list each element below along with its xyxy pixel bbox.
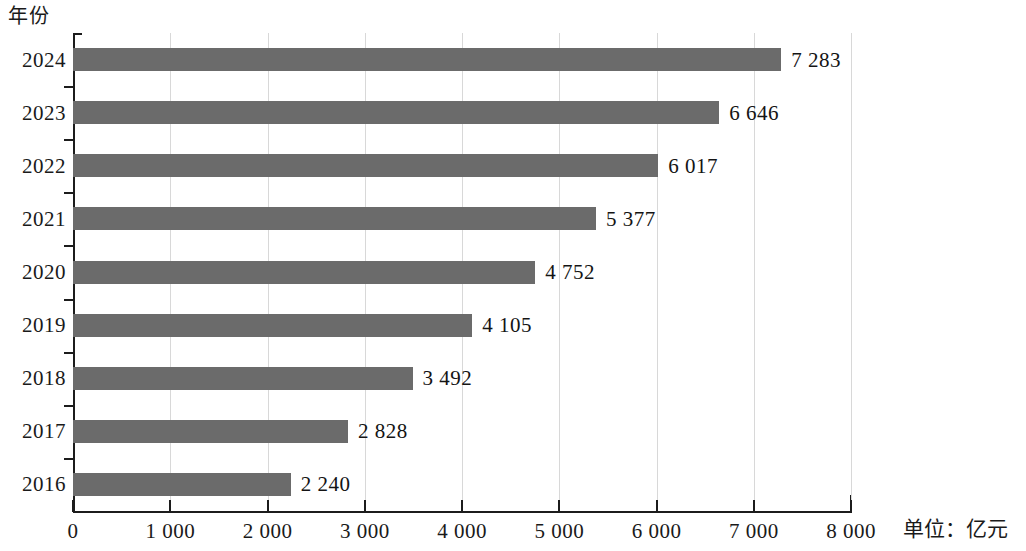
bar-value-label: 6 646 bbox=[729, 101, 779, 125]
bar-value-label: 2 240 bbox=[301, 472, 351, 496]
y-axis-category-label: 2022 bbox=[0, 154, 66, 178]
y-axis-title: 年份 bbox=[8, 4, 50, 28]
x-axis-tick-label: 7 000 bbox=[729, 518, 779, 544]
bar-chart: 年份 01 0002 0003 0004 0005 0006 0007 0008… bbox=[0, 0, 1026, 551]
x-axis-tick-label: 6 000 bbox=[632, 518, 682, 544]
y-axis-category-label: 2019 bbox=[0, 313, 66, 337]
y-axis-category-label: 2020 bbox=[0, 260, 66, 284]
bar-value-label: 7 283 bbox=[791, 48, 841, 72]
x-axis-tick bbox=[753, 500, 755, 512]
y-axis-tick bbox=[64, 86, 74, 88]
y-axis-tick bbox=[64, 192, 74, 194]
y-axis-tick bbox=[64, 245, 74, 247]
x-axis-tick bbox=[850, 500, 852, 512]
y-axis-category-label: 2018 bbox=[0, 366, 66, 390]
y-axis-top-cap bbox=[73, 33, 82, 35]
y-axis-category-label: 2024 bbox=[0, 48, 66, 72]
y-axis-category-label: 2016 bbox=[0, 472, 66, 496]
bar bbox=[73, 314, 472, 337]
x-axis-tick-label: 1 000 bbox=[145, 518, 195, 544]
x-axis-tick-label: 8 000 bbox=[826, 518, 876, 544]
bar bbox=[73, 420, 348, 443]
bar bbox=[73, 154, 658, 177]
x-axis-tick-label: 4 000 bbox=[437, 518, 487, 544]
x-axis-tick bbox=[364, 500, 366, 512]
bar-value-label: 2 828 bbox=[358, 419, 408, 443]
bar bbox=[73, 261, 535, 284]
y-axis-tick bbox=[64, 299, 74, 301]
y-axis-tick bbox=[64, 458, 74, 460]
x-axis-tick bbox=[558, 500, 560, 512]
y-axis-category-label: 2021 bbox=[0, 207, 66, 231]
unit-note: 单位：亿元 bbox=[903, 516, 1008, 542]
bar bbox=[73, 48, 781, 71]
bar-value-label: 5 377 bbox=[606, 207, 656, 231]
bar-value-label: 3 492 bbox=[423, 366, 473, 390]
y-axis-category-label: 2023 bbox=[0, 101, 66, 125]
bar-value-label: 6 017 bbox=[668, 154, 718, 178]
bar-value-label: 4 105 bbox=[482, 313, 532, 337]
y-axis-category-label: 2017 bbox=[0, 419, 66, 443]
y-axis-tick bbox=[64, 139, 74, 141]
gridline bbox=[851, 33, 852, 511]
x-axis-tick-label: 2 000 bbox=[243, 518, 293, 544]
x-axis-tick bbox=[656, 500, 658, 512]
x-axis-tick-label: 5 000 bbox=[534, 518, 584, 544]
bar bbox=[73, 101, 719, 124]
x-axis-tick bbox=[169, 500, 171, 512]
y-axis-tick bbox=[64, 405, 74, 407]
x-axis-tick-label: 3 000 bbox=[340, 518, 390, 544]
x-axis-tick bbox=[461, 500, 463, 512]
bar-value-label: 4 752 bbox=[545, 260, 595, 284]
bar bbox=[73, 473, 291, 496]
bar bbox=[73, 207, 596, 230]
bar bbox=[73, 367, 413, 390]
x-axis-tick-label: 0 bbox=[68, 518, 79, 544]
x-axis-tick bbox=[267, 500, 269, 512]
x-axis-tick bbox=[72, 500, 74, 512]
y-axis-tick bbox=[64, 352, 74, 354]
